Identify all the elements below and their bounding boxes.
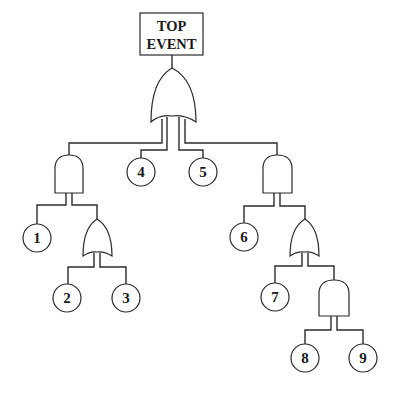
event-label: 9 (359, 350, 367, 366)
basic-event-4: 4 (127, 158, 155, 186)
basic-event-8: 8 (291, 344, 319, 372)
event-label: 5 (199, 164, 207, 180)
connector-g3-to-e2 (68, 253, 94, 284)
event-label: 6 (240, 229, 248, 245)
event-label: 2 (63, 290, 71, 306)
event-label: 7 (271, 289, 279, 305)
event-label: 4 (137, 164, 145, 180)
connector-g5-to-e9 (337, 316, 363, 344)
event-label: 8 (301, 350, 309, 366)
or-gate-right (290, 219, 319, 256)
fault-tree-diagram: TOP EVENT 4 5 1 2 3 (0, 0, 405, 393)
and-gate-left (55, 155, 83, 193)
basic-event-1: 1 (23, 224, 51, 252)
basic-event-6: 6 (230, 223, 258, 251)
connector-g1-to-g3 (72, 193, 97, 219)
top-event-label-line1: TOP (157, 18, 187, 34)
basic-event-2: 2 (53, 284, 81, 312)
connector-g4-to-e7 (275, 253, 302, 283)
connector-g0-to-e4 (141, 117, 167, 158)
basic-event-5: 5 (189, 158, 217, 186)
connector-g2-to-e6 (244, 193, 274, 223)
top-event-label-line2: EVENT (147, 36, 197, 52)
connector-g2-to-g4 (280, 193, 305, 219)
or-gate-top (151, 68, 196, 122)
top-event: TOP EVENT (140, 13, 203, 55)
connector-g5-to-e8 (305, 316, 331, 344)
connector-g4-to-g5 (308, 253, 334, 280)
event-label: 1 (33, 230, 41, 246)
and-gate-right (263, 155, 292, 193)
basic-event-3: 3 (112, 284, 140, 312)
connector-g1-to-e1 (37, 193, 66, 224)
basic-event-7: 7 (261, 283, 289, 311)
and-gate-bottom (319, 280, 349, 316)
or-gate-left (83, 219, 112, 256)
connector-g0-to-e5 (179, 117, 203, 158)
event-label: 3 (122, 290, 130, 306)
connector-g3-to-e3 (100, 253, 126, 284)
basic-event-9: 9 (349, 344, 377, 372)
